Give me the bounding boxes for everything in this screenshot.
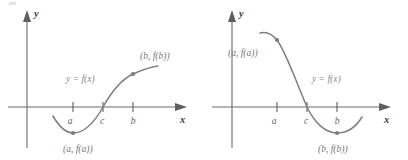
point-label-b-right: (b, f(b)) [318, 144, 348, 155]
point-marker-a-left [71, 131, 75, 135]
x-tick-label-a-right: a [272, 116, 277, 126]
y-axis-right [228, 10, 236, 148]
x-axis-left [8, 103, 187, 111]
x-axis-right [212, 103, 391, 111]
y-axis-label-left: y [32, 8, 39, 19]
x-tick-label-b-right: b [335, 116, 340, 126]
function-label-right: y = f(x) [311, 74, 341, 85]
x-axis-label-right: x [383, 114, 389, 125]
function-label-left: y = f(x) [65, 74, 95, 85]
point-label-b-left: (b, f(b)) [140, 51, 170, 62]
x-tick-label-a-left: a [68, 116, 73, 126]
point-marker-b-left [131, 72, 135, 76]
point-label-a-right: (a, f(a)) [228, 48, 258, 59]
chart-panel-right: y x a c b (a, f(a)) (b, f(b)) y = f(x) [204, 0, 408, 160]
x-tick-label-b-left: b [131, 116, 136, 126]
point-marker-a-right [275, 38, 279, 42]
chart-panel-left: y x a c b (a, f(a)) (b, f(b)) y = f(x) [0, 0, 204, 160]
point-label-a-left: (a, f(a)) [63, 144, 93, 155]
x-axis-label-left: x [179, 114, 185, 125]
figure-container: y x a c b (a, f(a)) (b, f(b)) y = f(x) [0, 0, 408, 160]
point-marker-b-right [335, 131, 339, 135]
x-tick-label-c-left: c [100, 116, 105, 126]
y-axis-label-right: y [237, 8, 244, 19]
x-tick-label-c-right: c [304, 116, 309, 126]
y-axis-left [23, 10, 31, 148]
